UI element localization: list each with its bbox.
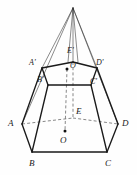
center-dot-O xyxy=(64,130,67,133)
vertex-label-E-prime: E' xyxy=(67,47,74,55)
figure-background xyxy=(0,0,137,175)
vertex-label-A: A xyxy=(8,119,14,128)
vertex-label-D-prime: D' xyxy=(96,59,104,67)
vertex-label-B-prime: B' xyxy=(37,76,44,84)
vertex-label-C-prime: C' xyxy=(90,78,97,86)
geometry-figure: A B C D E O A' B' C' D' E' O' xyxy=(0,0,137,175)
center-dot-O-prime xyxy=(66,68,69,71)
center-label-O: O xyxy=(60,136,67,145)
figure-canvas xyxy=(0,0,137,175)
vertex-label-B: B xyxy=(29,159,35,168)
vertex-label-C: C xyxy=(105,159,111,168)
vertex-label-A-prime: A' xyxy=(29,59,36,67)
vertex-label-E: E xyxy=(76,107,82,116)
vertex-label-D: D xyxy=(122,119,129,128)
center-label-O-prime: O' xyxy=(70,62,78,70)
